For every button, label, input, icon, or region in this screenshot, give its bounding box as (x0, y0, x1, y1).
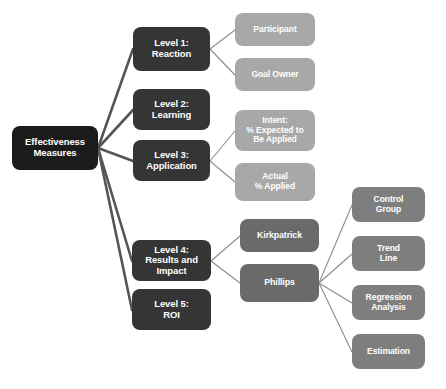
node-control-group[interactable]: Control Group (352, 187, 425, 222)
connector-level1-to-participant (210, 30, 235, 49)
connector-level4-to-phillips (211, 261, 240, 283)
connector-level1-to-goal-owner (210, 49, 235, 75)
node-actual[interactable]: Actual % Applied (235, 163, 315, 201)
connector-phillips-to-estimation (319, 283, 352, 352)
connector-level3-to-actual (210, 161, 235, 182)
connector-root-to-level1 (98, 49, 133, 148)
node-root[interactable]: Effectiveness Measures (12, 126, 98, 170)
node-label-actual: Actual % Applied (255, 172, 295, 191)
node-label-participant: Participant (253, 25, 296, 35)
connector-phillips-to-control-group (319, 205, 352, 283)
node-label-kirkpatrick: Kirkpatrick (257, 231, 302, 241)
connector-root-to-level5 (98, 148, 132, 310)
node-trend-line[interactable]: Trend Line (352, 236, 425, 271)
node-label-level1: Level 1: Reaction (152, 38, 191, 59)
node-regression-analysis[interactable]: Regression Analysis (352, 285, 425, 320)
effectiveness-measures-diagram: Effectiveness MeasuresLevel 1: ReactionL… (0, 0, 446, 389)
node-label-regression-analysis: Regression Analysis (366, 293, 412, 312)
node-label-intent: Intent: % Expected to Be Applied (246, 116, 303, 145)
node-level4[interactable]: Level 4: Results and Impact (132, 240, 211, 281)
node-intent[interactable]: Intent: % Expected to Be Applied (235, 110, 315, 151)
connector-root-to-level3 (98, 148, 133, 161)
connector-level3-to-intent (210, 131, 235, 161)
connector-root-to-level2 (98, 110, 133, 148)
node-label-phillips: Phillips (264, 278, 294, 288)
node-label-root: Effectiveness Measures (25, 137, 85, 158)
node-level2[interactable]: Level 2: Learning (133, 89, 210, 130)
node-participant[interactable]: Participant (235, 13, 315, 46)
connector-level4-to-kirkpatrick (211, 236, 240, 261)
node-label-control-group: Control Group (374, 195, 404, 214)
connector-phillips-to-regression-analysis (319, 283, 352, 303)
node-level1[interactable]: Level 1: Reaction (133, 27, 210, 71)
node-kirkpatrick[interactable]: Kirkpatrick (240, 219, 319, 252)
node-estimation[interactable]: Estimation (352, 334, 425, 369)
node-label-level5: Level 5: ROI (154, 299, 189, 320)
connector-phillips-to-trend-line (319, 254, 352, 283)
node-phillips[interactable]: Phillips (240, 264, 319, 302)
node-label-estimation: Estimation (367, 347, 410, 357)
node-level5[interactable]: Level 5: ROI (132, 289, 211, 330)
node-label-goal-owner: Goal Owner (251, 70, 298, 80)
node-level3[interactable]: Level 3: Application (133, 140, 210, 181)
node-label-trend-line: Trend Line (377, 244, 400, 263)
connector-root-to-level4 (98, 148, 132, 261)
node-label-level3: Level 3: Application (146, 150, 197, 171)
node-label-level2: Level 2: Learning (152, 99, 191, 120)
node-label-level4: Level 4: Results and Impact (135, 245, 208, 277)
node-goal-owner[interactable]: Goal Owner (235, 58, 315, 91)
